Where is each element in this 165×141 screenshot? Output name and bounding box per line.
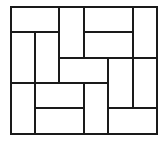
domino-tiling-diagram [0,0,165,141]
background [0,0,165,141]
